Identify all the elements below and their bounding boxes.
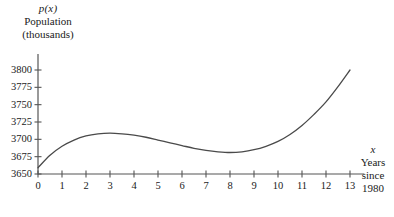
population-chart: p(x) Population (thousands) x Years sinc… bbox=[0, 0, 394, 217]
x-tick-label: 4 bbox=[127, 181, 141, 191]
x-tick-label: 2 bbox=[79, 181, 93, 191]
y-tick-label: 3750 bbox=[2, 100, 32, 110]
x-tick-label: 6 bbox=[175, 181, 189, 191]
x-tick-label: 9 bbox=[247, 181, 261, 191]
x-tick-label: 5 bbox=[151, 181, 165, 191]
y-tick-label: 3700 bbox=[2, 134, 32, 144]
y-tick-label: 3650 bbox=[2, 169, 32, 179]
x-tick-label: 13 bbox=[343, 181, 357, 191]
y-tick-label: 3800 bbox=[2, 65, 32, 75]
x-tick-label: 10 bbox=[271, 181, 285, 191]
tick-layer bbox=[35, 70, 351, 178]
y-tick-label: 3725 bbox=[2, 117, 32, 127]
x-tick-label: 8 bbox=[223, 181, 237, 191]
x-tick-label: 11 bbox=[295, 181, 309, 191]
x-tick-label: 1 bbox=[55, 181, 69, 191]
x-tick-label: 7 bbox=[199, 181, 213, 191]
axis-layer bbox=[38, 54, 364, 175]
y-tick-label: 3675 bbox=[2, 152, 32, 162]
population-curve bbox=[38, 70, 350, 168]
x-tick-label: 12 bbox=[319, 181, 333, 191]
x-tick-label: 0 bbox=[31, 181, 45, 191]
y-tick-label: 3775 bbox=[2, 82, 32, 92]
x-tick-label: 3 bbox=[103, 181, 117, 191]
